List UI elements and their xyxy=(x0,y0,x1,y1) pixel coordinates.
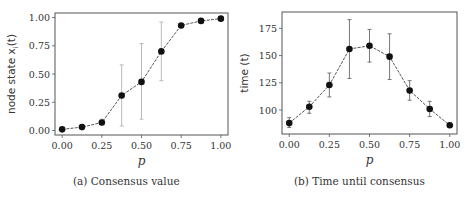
chart-time-until-consensus: 0.000.250.500.751.00100125150175ptime (t… xyxy=(236,0,471,170)
panel-time-until-consensus: 0.000.250.500.751.00100125150175ptime (t… xyxy=(236,0,471,202)
x-tick-label: 0.50 xyxy=(131,140,152,151)
data-point xyxy=(99,119,106,126)
y-tick-label: 1.00 xyxy=(29,12,50,23)
data-point xyxy=(306,103,313,110)
caption-a: (a) Consensus value xyxy=(73,175,180,187)
x-tick-label: 0.75 xyxy=(399,139,420,150)
y-tick-label: 0.00 xyxy=(29,125,50,136)
x-tick-label: 0.25 xyxy=(319,139,340,150)
y-tick-label: 0.75 xyxy=(29,40,50,51)
chart-consensus-value: 0.000.250.500.751.000.000.250.500.751.00… xyxy=(0,0,236,170)
y-tick-label: 150 xyxy=(259,50,277,61)
data-point xyxy=(118,92,125,99)
data-point xyxy=(326,82,333,89)
panel-consensus-value: 0.000.250.500.751.000.000.250.500.751.00… xyxy=(0,0,236,202)
data-point xyxy=(138,79,145,86)
y-axis-label: node state xi(t) xyxy=(5,34,20,114)
x-tick-label: 0.25 xyxy=(91,140,112,151)
x-tick-label: 1.00 xyxy=(439,139,460,150)
x-tick-label: 0.00 xyxy=(279,139,300,150)
data-point xyxy=(286,120,293,127)
data-point xyxy=(198,18,205,25)
data-point xyxy=(59,126,66,133)
data-point xyxy=(79,124,86,131)
y-axis-label: time (t) xyxy=(238,53,250,92)
x-tick-label: 0.00 xyxy=(52,140,73,151)
x-tick-label: 1.00 xyxy=(210,140,231,151)
y-tick-label: 100 xyxy=(259,105,277,116)
y-tick-label: 125 xyxy=(259,77,277,88)
y-tick-label: 0.25 xyxy=(29,97,50,108)
data-point xyxy=(218,15,225,22)
y-tick-label: 175 xyxy=(259,23,277,34)
y-tick-label: 0.50 xyxy=(29,69,50,80)
data-point xyxy=(446,122,453,129)
x-tick-label: 0.50 xyxy=(359,139,380,150)
data-point xyxy=(346,46,353,53)
data-point xyxy=(178,22,185,29)
data-point xyxy=(406,87,413,94)
data-point xyxy=(426,106,433,113)
caption-b: (b) Time until consensus xyxy=(294,175,425,187)
data-point xyxy=(158,48,165,55)
x-axis-label: p xyxy=(366,153,374,167)
data-point xyxy=(366,42,373,49)
x-tick-label: 0.75 xyxy=(171,140,192,151)
data-point xyxy=(386,53,393,60)
x-axis-label: p xyxy=(138,154,146,168)
